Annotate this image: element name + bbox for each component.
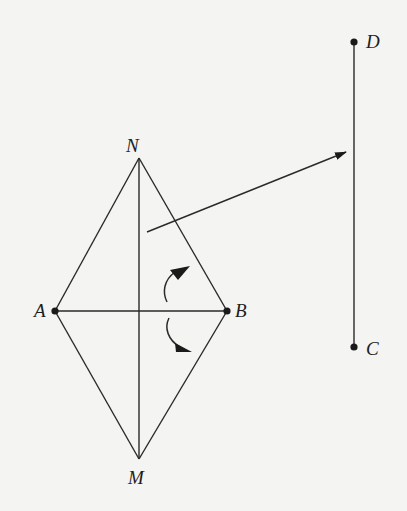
translation-arrow	[147, 152, 346, 232]
segment-NA	[55, 158, 139, 311]
geometry-diagram: N A B M D C	[0, 0, 407, 511]
label-B: B	[235, 300, 247, 321]
label-A: A	[32, 300, 46, 321]
label-D: D	[365, 31, 380, 52]
point-D	[350, 38, 357, 45]
rotation-arrow-up-icon	[164, 272, 175, 302]
label-M: M	[127, 467, 145, 488]
point-A	[51, 307, 58, 314]
rotation-arrowhead-down	[175, 343, 192, 352]
rotation-arrowhead-up	[170, 266, 190, 280]
segment-BM	[139, 311, 227, 459]
segment-NB	[139, 158, 227, 311]
label-N: N	[125, 135, 140, 156]
point-B	[223, 307, 230, 314]
label-C: C	[366, 338, 379, 359]
point-C	[350, 343, 357, 350]
segment-AM	[55, 311, 139, 459]
rotation-arrow-down-icon	[167, 318, 180, 347]
